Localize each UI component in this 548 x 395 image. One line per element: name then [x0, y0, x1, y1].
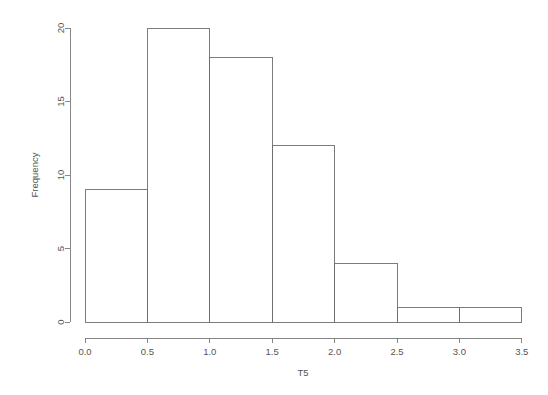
x-tick-label: 1.0 — [203, 346, 216, 357]
y-tick-label: 15 — [55, 96, 66, 107]
x-tick-label: 0.5 — [141, 346, 154, 357]
plot-background — [0, 0, 548, 395]
x-tick-label: 1.5 — [266, 346, 279, 357]
histogram-plot-root: 05101520 Frequency 0.00.51.01.52.02.53.0… — [0, 0, 548, 395]
x-tick-label: 3.0 — [453, 346, 466, 357]
y-tick-label: 20 — [55, 23, 66, 34]
x-tick-label: 2.0 — [328, 346, 341, 357]
y-axis-title: Frequency — [29, 152, 40, 197]
histogram-chart: 05101520 Frequency 0.00.51.01.52.02.53.0… — [0, 0, 548, 395]
x-tick-label: 0.0 — [78, 346, 91, 357]
y-tick-label: 5 — [55, 246, 66, 251]
x-tick-label: 2.5 — [390, 346, 403, 357]
x-tick-label: 3.5 — [515, 346, 528, 357]
y-tick-label: 0 — [55, 319, 66, 324]
y-tick-label: 10 — [55, 170, 66, 181]
x-axis-title: T5 — [297, 367, 308, 378]
